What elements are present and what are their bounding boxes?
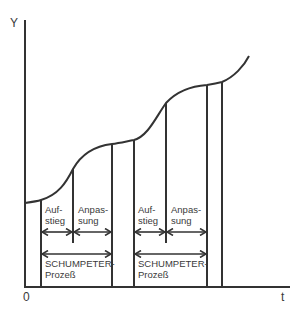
origin-label: 0 bbox=[23, 290, 30, 304]
schumpeter-process-diagram: Y 0 t Auf- stieg Anpas- sung SCHUMPETER-… bbox=[0, 0, 304, 317]
growth-curve bbox=[25, 56, 249, 203]
cycle2-rise-label-2: stieg bbox=[138, 215, 158, 226]
cycle1-rise-label-1: Auf- bbox=[45, 204, 62, 215]
cycle1-process-label-2: Prozeß bbox=[45, 269, 76, 280]
y-axis-label: Y bbox=[10, 16, 18, 30]
cycle2-process-label-2: Prozeß bbox=[138, 269, 169, 280]
x-axis-label: t bbox=[281, 290, 285, 304]
cycle2-adjust-label-1: Anpas- bbox=[171, 204, 201, 215]
cycle2-process-label-1: SCHUMPETER- bbox=[138, 258, 208, 269]
cycle2-rise-label-1: Auf- bbox=[138, 204, 155, 215]
cycle2-adjust-label-2: sung bbox=[171, 215, 192, 226]
cycle1-rise-label-2: stieg bbox=[45, 215, 65, 226]
cycle1-process-label-1: SCHUMPETER- bbox=[45, 258, 115, 269]
cycle1-adjust-label-2: sung bbox=[78, 215, 99, 226]
cycle1-adjust-label-1: Anpas- bbox=[78, 204, 108, 215]
